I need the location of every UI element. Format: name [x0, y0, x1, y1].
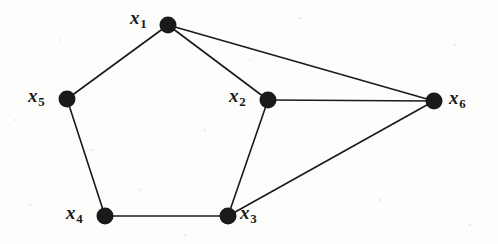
graph-edge-x2-x3: [228, 100, 268, 216]
node-label-var-x1: x: [130, 7, 140, 28]
node-label-x6: x6: [449, 88, 465, 107]
node-label-var-x5: x: [28, 85, 38, 106]
graph-node-x6: [426, 93, 443, 110]
graph-diagram: x1x2x3x4x5x6: [0, 0, 498, 244]
graph-node-x4: [97, 208, 114, 225]
edges-layer: [67, 25, 434, 216]
node-label-subscript-x1: 1: [140, 16, 147, 31]
graph-edge-x1-x5: [67, 25, 168, 99]
node-label-subscript-x4: 4: [76, 211, 83, 226]
graph-node-x1: [160, 17, 177, 34]
node-label-var-x3: x: [240, 202, 250, 223]
node-label-x3: x3: [240, 203, 256, 222]
graph-edge-x1-x2: [168, 25, 268, 100]
node-label-var-x2: x: [229, 85, 239, 106]
node-label-subscript-x3: 3: [250, 211, 257, 226]
node-label-x2: x2: [229, 86, 245, 105]
graph-edge-x3-x6: [228, 101, 434, 216]
graph-edge-x4-x5: [67, 99, 105, 216]
node-label-var-x4: x: [66, 202, 76, 223]
nodes-layer: [59, 17, 443, 225]
node-label-x1: x1: [130, 8, 146, 27]
graph-edge-x1-x6: [168, 25, 434, 101]
node-label-x4: x4: [66, 203, 82, 222]
node-label-x5: x5: [28, 86, 44, 105]
graph-node-x3: [220, 208, 237, 225]
graph-node-x5: [59, 91, 76, 108]
graph-node-x2: [260, 92, 277, 109]
graph-edge-x2-x6: [268, 100, 434, 101]
node-label-subscript-x5: 5: [38, 94, 45, 109]
node-label-var-x6: x: [449, 87, 459, 108]
node-label-subscript-x6: 6: [459, 96, 466, 111]
node-label-subscript-x2: 2: [239, 94, 246, 109]
